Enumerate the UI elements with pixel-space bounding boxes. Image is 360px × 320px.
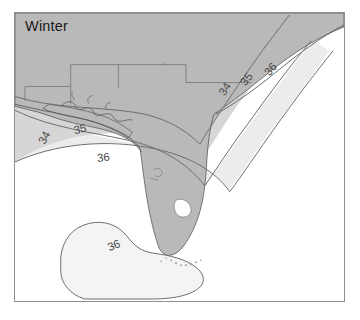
contour-map-canvas: 34 35 36 34 35 36 36 bbox=[15, 13, 344, 301]
map-frame: 34 35 36 34 35 36 36 Winter bbox=[14, 12, 345, 302]
contour-label-36-west: 36 bbox=[96, 151, 110, 164]
figure-page: 34 35 36 34 35 36 36 Winter bbox=[0, 0, 360, 320]
season-title: Winter bbox=[25, 19, 68, 34]
